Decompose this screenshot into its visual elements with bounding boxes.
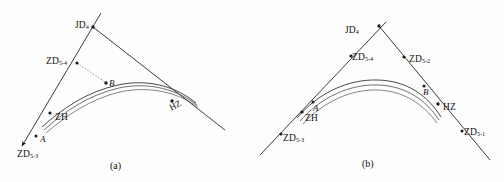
label-zd51-b: ZD5-1	[464, 128, 485, 138]
label-zd54-a-text: ZD	[46, 56, 59, 66]
back-tangent-line-b	[260, 22, 386, 155]
label-zd53-a-text: ZD	[17, 149, 30, 159]
label-point-b-b: B	[423, 88, 429, 97]
label-zd54-b-sub: 5-4	[365, 55, 373, 62]
label-hz-b-text: HZ	[443, 102, 456, 112]
label-point-b-a: B	[109, 79, 115, 88]
label-zd53-a-sub: 5-3	[30, 152, 38, 159]
point-zd54-a	[75, 61, 78, 64]
label-zd53-b-sub: 5-3	[296, 136, 304, 143]
label-jd4-b-text: JD	[345, 25, 356, 35]
label-zd52-b-text: ZD	[409, 54, 422, 64]
curve-line-inner-a	[46, 90, 198, 133]
caption-panel-a: (a)	[110, 160, 121, 171]
point-zh-b	[300, 110, 303, 113]
label-zd52-b-sub: 5-2	[422, 57, 430, 64]
label-jd4-a-sub: 4	[86, 23, 89, 30]
label-jd4-a-text: JD	[75, 20, 86, 30]
label-hz-b: HZ	[443, 103, 456, 113]
label-zh-a: ZH	[55, 113, 68, 123]
caption-panel-b-text: (b)	[362, 158, 374, 169]
label-zh-b-text: ZH	[305, 113, 318, 123]
label-zd54-b-text: ZD	[352, 52, 365, 62]
point-hz-b	[436, 102, 439, 105]
point-zd52-b	[402, 55, 405, 58]
point-jd4-a	[91, 25, 94, 28]
label-point-a-a-text: A	[40, 134, 46, 144]
caption-panel-b: (b)	[362, 158, 374, 169]
point-zh-a	[48, 111, 51, 114]
label-zd51-b-sub: 5-1	[477, 130, 485, 137]
label-point-b-a-text: B	[109, 78, 115, 88]
label-point-a-a: A	[40, 135, 46, 144]
label-point-b-b-text: B	[423, 87, 429, 97]
label-zh-b: ZH	[305, 114, 318, 124]
panel-a-geometry	[22, 13, 225, 146]
label-point-a-b: A	[313, 104, 319, 113]
label-zd51-b-text: ZD	[464, 127, 477, 137]
label-zh-a-text: ZH	[55, 112, 68, 122]
point-jd4-b	[377, 24, 380, 27]
point-a-a	[35, 135, 38, 138]
label-jd4-b-sub: 4	[356, 28, 359, 35]
label-zd54-a: ZD5-4	[46, 57, 67, 67]
label-jd4-b: JD4	[345, 26, 359, 36]
label-zd54-b: ZD5-4	[352, 53, 373, 63]
label-zd54-a-sub: 5-4	[59, 59, 67, 66]
label-zd53-b-text: ZD	[283, 133, 296, 143]
caption-panel-a-text: (a)	[110, 160, 121, 171]
offset-dotted-line-a	[77, 63, 105, 82]
back-tangent-line-a	[22, 13, 101, 146]
figure-container: JD4 ZD5-4 ZH A B ZD5-3 HZ (a) JD4 ZD5-4 …	[0, 0, 504, 182]
label-zd52-b: ZD5-2	[409, 55, 430, 65]
label-zd53-b: ZD5-3	[283, 134, 304, 144]
label-point-a-b-text: A	[313, 103, 319, 113]
label-jd4-a: JD4	[75, 21, 89, 31]
point-b-a	[104, 81, 107, 84]
label-zd53-a: ZD5-3	[17, 150, 38, 160]
